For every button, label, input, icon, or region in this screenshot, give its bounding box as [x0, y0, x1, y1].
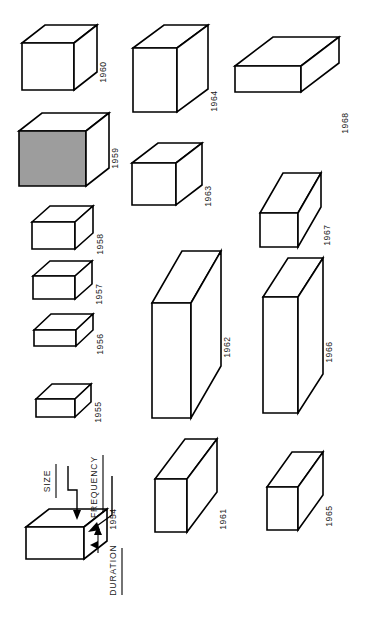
box-1965-year-label: 1965 — [324, 505, 334, 527]
box-1961-year-label: 1961 — [218, 508, 228, 530]
box-1960-front-face — [22, 43, 74, 90]
box-1966-year-label: 1966 — [324, 341, 334, 363]
box-1964-year-label: 1964 — [209, 90, 219, 112]
box-1962-front-face — [152, 303, 191, 418]
box-1966-front-face — [263, 297, 298, 413]
box-1962-year-label: 1962 — [222, 336, 232, 358]
box-1957 — [33, 261, 92, 299]
box-1959-front-face — [19, 131, 86, 186]
box-1959-year-label: 1959 — [110, 147, 120, 169]
size-label: SIZE — [42, 470, 52, 493]
box-1963 — [132, 143, 202, 205]
box-1967 — [260, 173, 321, 247]
box-1954-year-label: 1954 — [108, 508, 118, 530]
duration-label: DURATION — [108, 544, 118, 595]
box-1958-year-label: 1958 — [95, 233, 105, 255]
box-1959 — [19, 113, 109, 186]
box-1966 — [263, 258, 323, 413]
frequency-label: FREQUENCY — [89, 456, 99, 518]
box-1957-front-face — [33, 276, 75, 299]
box-1964 — [133, 25, 208, 112]
isometric-box-chart: 1960 1959 1958 1957 1956 1955 1954 — [0, 0, 371, 623]
box-1965 — [267, 452, 323, 530]
box-1955 — [36, 384, 91, 417]
box-1962 — [152, 251, 221, 418]
box-1958-front-face — [32, 222, 75, 249]
box-1963-front-face — [132, 163, 176, 205]
box-1968 — [235, 37, 339, 92]
box-1968-front-face — [235, 66, 301, 92]
box-1960-year-label: 1960 — [98, 61, 108, 83]
box-1956-year-label: 1956 — [95, 333, 105, 355]
box-1955-front-face — [36, 399, 75, 417]
box-1967-year-label: 1967 — [322, 224, 332, 246]
box-1964-front-face — [133, 48, 177, 112]
box-1961-front-face — [155, 479, 187, 532]
box-1960 — [22, 25, 97, 90]
box-1956 — [34, 314, 93, 346]
box-1968-year-label: 1968 — [340, 112, 350, 134]
box-1954-front-face — [26, 527, 84, 559]
box-1958 — [32, 206, 93, 249]
box-1961 — [155, 439, 217, 532]
figure-canvas: 1960 1959 1958 1957 1956 1955 1954 — [0, 0, 371, 623]
box-1957-year-label: 1957 — [94, 283, 104, 305]
box-1965-front-face — [267, 487, 298, 530]
box-1963-year-label: 1963 — [203, 185, 213, 207]
box-1955-year-label: 1955 — [93, 401, 103, 423]
size-leader-line — [68, 466, 77, 513]
box-1956-front-face — [34, 330, 76, 346]
box-1967-front-face — [260, 213, 298, 247]
